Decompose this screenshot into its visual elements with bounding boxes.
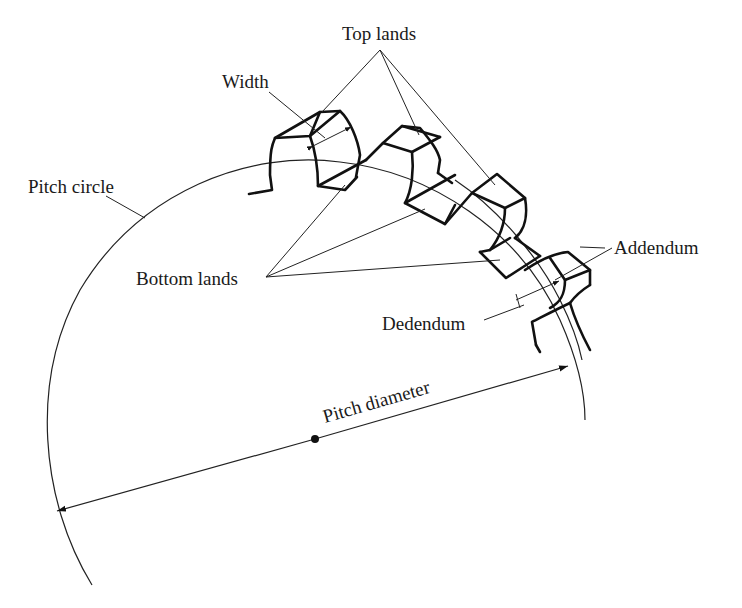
center-point: [311, 435, 319, 443]
leader-pitch-circle: [106, 196, 145, 218]
label-pitch-circle: Pitch circle: [28, 176, 114, 197]
pitch-diameter-line-left: [57, 439, 315, 511]
leader-top-lands-2: [380, 50, 419, 135]
gear-diagram: Top lands Width Pitch circle Bottom land…: [0, 0, 742, 608]
gear-tooth-2: [366, 126, 455, 224]
leader-top-lands-3: [380, 50, 495, 185]
leader-dedendum: [484, 305, 524, 320]
dimension-line: [516, 281, 559, 300]
label-addendum: Addendum: [614, 237, 699, 258]
gear-diagram-svg: Top lands Width Pitch circle Bottom land…: [0, 0, 742, 608]
leader-bottom-lands-3: [266, 260, 500, 277]
leader-top-lands-1: [322, 50, 380, 112]
leader-bottom-lands-1: [266, 185, 345, 277]
label-bottom-lands: Bottom lands: [136, 268, 238, 289]
label-width: Width: [222, 71, 269, 92]
label-dedendum: Dedendum: [382, 313, 466, 334]
label-top-lands: Top lands: [342, 23, 416, 44]
gear-tooth-3: [445, 174, 540, 278]
leader-addendum: [580, 247, 605, 248]
dimension-tick: [516, 294, 520, 308]
gear-tooth-4: [525, 252, 590, 352]
label-pitch-diameter: Pitch diameter: [320, 376, 432, 427]
